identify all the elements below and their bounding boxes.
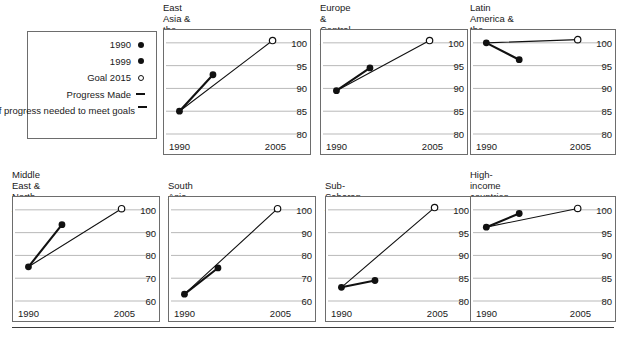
x-axis-tick-label-end: 2005 (570, 142, 591, 152)
y-axis-tick-label: 90 (145, 229, 156, 239)
filled-circle-icon (134, 42, 147, 48)
filled-circle-icon (134, 58, 147, 64)
y-axis-tick-label: 100 (291, 39, 307, 49)
x-axis-tick-label-start: 1990 (331, 309, 352, 319)
data-point-filled (25, 263, 32, 270)
required-rate-line (184, 209, 277, 294)
data-point-filled (516, 56, 523, 63)
required-rate-line (179, 41, 272, 112)
data-point-goal (574, 205, 580, 211)
x-axis-tick-label-start: 1990 (174, 309, 195, 319)
x-axis-tick-label-end: 2005 (114, 309, 135, 319)
legend-label-1990: 1990 (110, 39, 131, 50)
plot-area: 8085909510019902005 (325, 196, 473, 322)
y-axis-tick-label: 70 (145, 274, 156, 284)
plot-area: 8085909510019902005 (470, 196, 616, 322)
y-axis-tick-label: 80 (301, 251, 312, 261)
data-point-filled (483, 224, 490, 231)
y-axis-tick-label: 95 (601, 229, 612, 239)
y-axis-tick-label: 95 (296, 62, 307, 72)
x-axis-tick-label-start: 1990 (326, 142, 347, 152)
progress-made-line (486, 43, 519, 60)
x-axis-tick-label-start: 1990 (476, 309, 497, 319)
legend-label-1999: 1999 (110, 56, 131, 67)
data-point-goal (118, 205, 124, 211)
plot-area: 8085909510019902005 (320, 29, 468, 155)
footer-rule (12, 327, 614, 328)
legend-item-progress-made: Progress Made (32, 89, 147, 100)
data-point-filled (176, 108, 183, 115)
y-axis-tick-label: 80 (296, 130, 307, 140)
data-point-filled (59, 221, 66, 228)
dash-icon (138, 106, 147, 108)
y-axis-tick-label: 80 (601, 130, 612, 140)
data-point-filled (333, 87, 340, 94)
y-axis-tick-label: 60 (301, 297, 312, 307)
y-axis-tick-label: 85 (296, 107, 307, 117)
plot-area: 6070809010019902005 (12, 196, 160, 322)
plot-area: 6070809010019902005 (168, 196, 316, 322)
plot-canvas (326, 197, 472, 321)
x-axis-tick-label-end: 2005 (265, 142, 286, 152)
plot-canvas (13, 197, 159, 321)
y-axis-tick-label: 100 (448, 39, 464, 49)
dash-icon (134, 93, 147, 95)
legend-item-goal-2015: Goal 2015 (32, 72, 147, 83)
y-axis-tick-label: 85 (458, 274, 469, 284)
progress-made-line (341, 280, 375, 287)
y-axis-tick-label: 85 (601, 107, 612, 117)
plot-canvas (471, 30, 615, 154)
y-axis-tick-label: 95 (453, 62, 464, 72)
required-rate-line (341, 208, 434, 288)
data-point-filled (483, 39, 490, 46)
y-axis-tick-label: 90 (458, 251, 469, 261)
x-axis-tick-label-end: 2005 (422, 142, 443, 152)
data-point-filled (338, 284, 345, 291)
y-axis-tick-label: 85 (453, 107, 464, 117)
data-point-filled (372, 277, 379, 284)
y-axis-tick-label: 80 (145, 251, 156, 261)
y-axis-tick-label: 70 (301, 274, 312, 284)
y-axis-tick-label: 100 (296, 206, 312, 216)
y-axis-tick-label: 80 (458, 297, 469, 307)
y-axis-tick-label: 95 (458, 229, 469, 239)
y-axis-tick-label: 100 (453, 206, 469, 216)
legend-label-progress-made: Progress Made (67, 89, 131, 100)
data-point-filled (181, 291, 188, 298)
y-axis-tick-label: 90 (601, 84, 612, 94)
chart-legend: 1990 1999 Goal 2015 Progress Made Rate o… (27, 31, 157, 139)
x-axis-tick-label-end: 2005 (570, 309, 591, 319)
open-circle-icon (134, 75, 147, 81)
y-axis-tick-label: 80 (453, 130, 464, 140)
plot-canvas (471, 197, 615, 321)
y-axis-tick-label: 100 (596, 206, 612, 216)
legend-item-1990: 1990 (32, 39, 147, 50)
required-rate-line (486, 208, 577, 227)
x-axis-tick-label-start: 1990 (18, 309, 39, 319)
plot-canvas (169, 197, 315, 321)
data-point-goal (269, 37, 275, 43)
x-axis-tick-label-end: 2005 (270, 309, 291, 319)
plot-area: 8085909510019902005 (163, 29, 311, 155)
y-axis-tick-label: 90 (296, 84, 307, 94)
y-axis-tick-label: 90 (601, 251, 612, 261)
required-rate-line (28, 209, 121, 267)
progress-made-line (486, 213, 519, 227)
y-axis-tick-label: 100 (596, 39, 612, 49)
y-axis-tick-label: 90 (453, 84, 464, 94)
data-point-goal (574, 36, 580, 42)
data-point-filled (215, 265, 222, 272)
progress-made-line (179, 75, 213, 111)
legend-item-1999: 1999 (32, 56, 147, 67)
progress-made-line (28, 225, 62, 267)
data-point-goal (431, 204, 437, 210)
y-axis-tick-label: 85 (601, 274, 612, 284)
plot-area: 8085909510019902005 (470, 29, 616, 155)
y-axis-tick-label: 80 (601, 297, 612, 307)
legend-label-goal-2015: Goal 2015 (87, 72, 131, 83)
data-point-filled (516, 210, 523, 217)
x-axis-tick-label-start: 1990 (476, 142, 497, 152)
legend-item-rate-of-progress: Rate of progress needed to meet goals (32, 105, 147, 117)
plot-canvas (164, 30, 310, 154)
figure-root: 1990 1999 Goal 2015 Progress Made Rate o… (0, 0, 626, 338)
